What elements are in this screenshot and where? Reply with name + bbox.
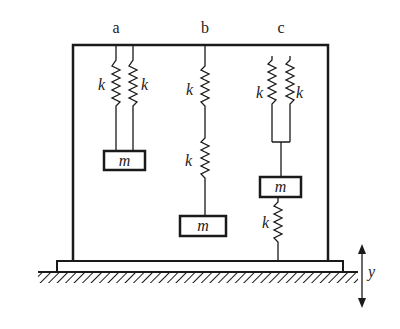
displacement-arrow: y: [358, 244, 376, 308]
spring-b-series: [201, 45, 209, 216]
mass-label-c: m: [275, 178, 287, 195]
config-b: k k m: [180, 45, 226, 236]
label-a: a: [112, 19, 119, 36]
spring-mass-diagram: a b c k k m k k m k k m k y: [0, 0, 400, 329]
mass-label-b: m: [197, 217, 209, 234]
spring-label-b2: k: [185, 152, 193, 169]
spring-label-b1: k: [186, 81, 194, 98]
spring-a-left: [112, 45, 120, 151]
spring-label-c2: k: [296, 84, 304, 101]
arrow-down-icon: [358, 298, 366, 308]
config-c: k k m k: [256, 56, 304, 261]
displacement-label: y: [366, 263, 376, 281]
spring-c-bottom: [274, 197, 282, 261]
mass-label-a: m: [119, 152, 131, 169]
spring-c-right: [286, 56, 294, 142]
spring-label-a2: k: [141, 76, 149, 93]
config-a: k k m: [98, 45, 149, 170]
spring-c-connector: [272, 142, 290, 177]
arrow-up-icon: [358, 244, 366, 254]
label-b: b: [201, 19, 209, 36]
spring-label-a1: k: [98, 76, 106, 93]
base-platform: [57, 261, 343, 272]
ground-hatch: [38, 273, 358, 283]
spring-label-c3: k: [262, 214, 270, 231]
spring-c-left: [268, 56, 276, 142]
spring-label-c1: k: [256, 84, 264, 101]
spring-a-right: [129, 45, 137, 151]
label-c: c: [277, 19, 284, 36]
